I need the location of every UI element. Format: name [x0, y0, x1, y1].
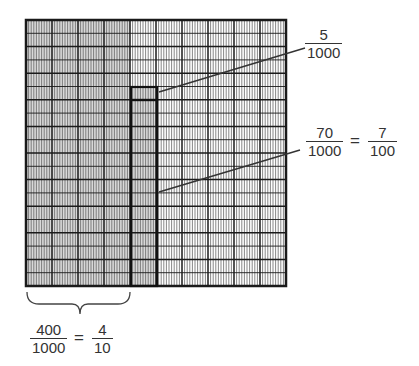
- equals-sign-shaded: =: [74, 328, 84, 348]
- fraction-tall-box-equivalent: 7 100: [368, 124, 397, 159]
- equals-sign-tall-box: =: [350, 131, 360, 151]
- leader-line-tall-box: [159, 150, 300, 192]
- fraction-small-box-numerator: 5: [305, 26, 342, 44]
- fraction-tall-box-denominator: 1000: [306, 142, 343, 159]
- fraction-shaded-columns: 400 1000: [30, 321, 67, 356]
- fraction-tall-box-numerator: 70: [306, 124, 343, 142]
- fraction-shaded-eq-numerator: 4: [92, 321, 113, 339]
- thousandths-grid-diagram: [0, 0, 419, 366]
- fraction-small-box-denominator: 1000: [305, 44, 342, 61]
- fraction-tall-box-eq-denominator: 100: [368, 142, 397, 159]
- fraction-tall-box: 70 1000: [306, 124, 343, 159]
- brace-under-shaded-columns: [27, 292, 130, 314]
- fraction-shaded-numerator: 400: [30, 321, 67, 339]
- fraction-tall-box-eq-numerator: 7: [368, 124, 397, 142]
- fraction-shaded-equivalent: 4 10: [92, 321, 113, 356]
- fraction-small-box: 5 1000: [305, 26, 342, 61]
- fraction-shaded-denominator: 1000: [30, 339, 67, 356]
- fraction-shaded-eq-denominator: 10: [92, 339, 113, 356]
